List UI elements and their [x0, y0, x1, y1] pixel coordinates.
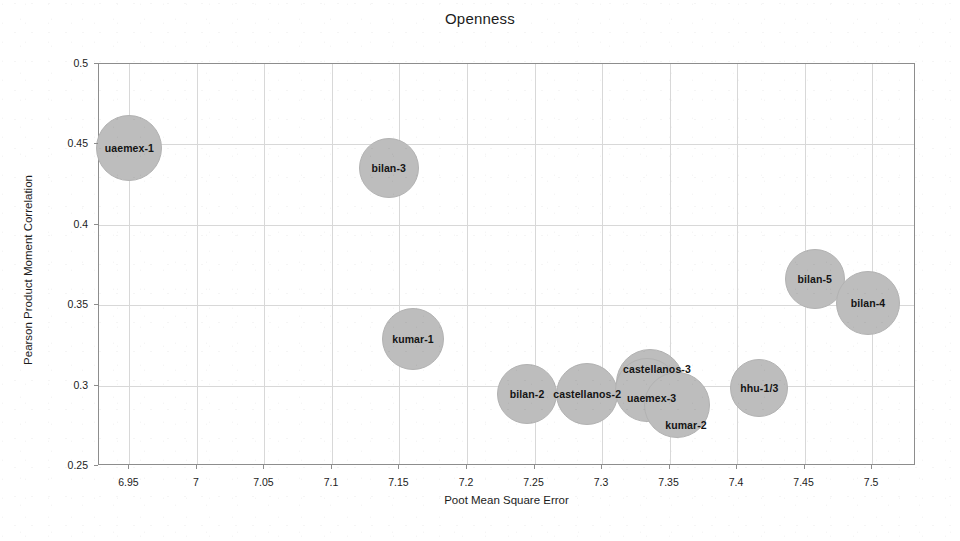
x-tick-mark	[871, 465, 872, 469]
chart-title: Openness	[0, 10, 960, 27]
x-tick-label: 7.5	[864, 476, 879, 488]
x-tick-label: 6.95	[118, 476, 138, 488]
gridline-vertical	[467, 64, 468, 464]
x-tick-label: 7.2	[459, 476, 474, 488]
x-tick-label: 7.45	[793, 476, 813, 488]
gridline-vertical	[872, 64, 873, 464]
data-bubble-label: bilan-3	[371, 162, 406, 174]
y-tick-mark	[94, 304, 98, 305]
x-tick-mark	[263, 465, 264, 469]
data-bubble-label: kumar-1	[392, 333, 434, 345]
x-tick-mark	[466, 465, 467, 469]
x-tick-mark	[601, 465, 602, 469]
y-tick-label: 0.3	[36, 379, 88, 391]
gridline-vertical	[332, 64, 333, 464]
data-bubble-label: bilan-2	[510, 388, 545, 400]
y-tick-label: 0.35	[36, 298, 88, 310]
y-tick-mark	[94, 385, 98, 386]
x-axis-label: Poot Mean Square Error	[98, 494, 915, 506]
x-tick-label: 7.4	[729, 476, 744, 488]
data-bubble-label: uaemex-3	[627, 392, 676, 404]
x-tick-mark	[534, 465, 535, 469]
data-bubble-label: castellanos-3	[623, 363, 691, 375]
y-axis-label: Pearson Product Moment Correlation	[22, 120, 34, 420]
data-bubble-label: castellanos-2	[553, 388, 621, 400]
x-tick-label: 7.1	[324, 476, 339, 488]
y-tick-mark	[94, 465, 98, 466]
x-tick-mark	[196, 465, 197, 469]
gridline-horizontal	[99, 225, 914, 226]
data-bubble-label: bilan-4	[851, 297, 886, 309]
x-tick-mark	[398, 465, 399, 469]
gridline-vertical	[264, 64, 265, 464]
x-tick-mark	[331, 465, 332, 469]
x-tick-label: 7.15	[388, 476, 408, 488]
x-tick-mark	[804, 465, 805, 469]
data-bubble-label: hhu-1/3	[740, 382, 778, 394]
y-tick-mark	[94, 143, 98, 144]
x-tick-mark	[128, 465, 129, 469]
x-tick-label: 7.3	[594, 476, 609, 488]
y-tick-mark	[94, 224, 98, 225]
x-tick-label: 7	[193, 476, 199, 488]
y-tick-mark	[94, 63, 98, 64]
y-tick-label: 0.45	[36, 137, 88, 149]
y-tick-label: 0.25	[36, 459, 88, 471]
gridline-vertical	[399, 64, 400, 464]
bubble-chart: Openness uaemex-1bilan-3kumar-1bilan-2ca…	[0, 0, 960, 541]
gridline-horizontal	[99, 144, 914, 145]
x-tick-label: 7.35	[658, 476, 678, 488]
y-tick-label: 0.4	[36, 218, 88, 230]
gridline-horizontal	[99, 305, 914, 306]
x-tick-mark	[736, 465, 737, 469]
x-tick-label: 7.25	[523, 476, 543, 488]
x-tick-label: 7.05	[253, 476, 273, 488]
data-bubble-label: bilan-5	[797, 273, 832, 285]
plot-area: uaemex-1bilan-3kumar-1bilan-2castellanos…	[98, 63, 915, 465]
gridline-vertical	[197, 64, 198, 464]
data-bubble-label: uaemex-1	[105, 142, 154, 154]
x-tick-mark	[669, 465, 670, 469]
y-tick-label: 0.5	[36, 57, 88, 69]
data-bubble-label: kumar-2	[665, 419, 707, 431]
